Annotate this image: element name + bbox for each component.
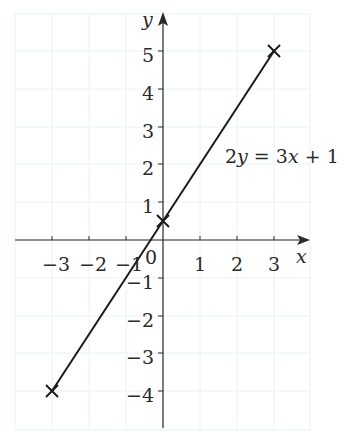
x-tick-label: 3 [268,253,280,275]
y-tick-label: 5 [142,44,154,66]
graph-canvas: −3 −2 −1 0 1 2 3 −4 −3 −2 −1 1 2 3 4 5 x… [0,0,353,441]
x-tick-label: −2 [79,253,107,275]
x-tick-label: −3 [42,253,70,275]
x-tick-labels: −3 −2 −1 0 1 2 3 [42,246,280,275]
y-tick-labels: −4 −3 −2 −1 1 2 3 4 5 [126,44,154,406]
x-axis-label: x [296,245,307,267]
equation-label: 2y = 3x + 1 [225,145,339,167]
y-tick-label: −1 [126,271,154,293]
y-tick-label: −2 [126,309,154,331]
y-tick-label: −4 [126,384,154,406]
y-tick-label: 3 [142,120,154,142]
y-tick-label: 4 [142,82,154,104]
y-tick-label: 2 [142,157,154,179]
x-tick-label: 1 [194,253,206,275]
y-tick-label: 1 [142,195,154,217]
y-axis-label: y [141,8,153,30]
x-tick-label: 0 [145,246,157,268]
x-tick-label: 2 [231,253,243,275]
y-tick-label: −3 [126,346,154,368]
